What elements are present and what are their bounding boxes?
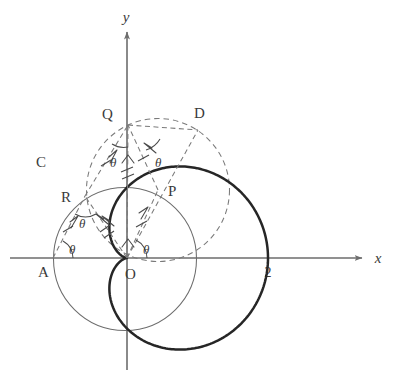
segment-O-R — [85, 196, 127, 258]
point-label-R: R — [61, 189, 71, 205]
point-label-O: O — [125, 266, 136, 282]
theta-label-at-R: θ — [79, 216, 86, 231]
point-label-D: D — [194, 105, 205, 121]
segment-tick-marks-group — [63, 155, 149, 238]
point-label-Q: Q — [102, 106, 113, 122]
theta-label-at-Q-right: θ — [155, 155, 162, 170]
theta-label-at-A: θ — [69, 242, 76, 257]
point-label-A: A — [38, 264, 49, 280]
x-axis-label: x — [374, 250, 382, 266]
geometry-figure: x y 2 — [0, 0, 400, 382]
angle-arc-at-Q-right — [146, 139, 160, 150]
y-axis-label: y — [121, 9, 130, 25]
point-label-C: C — [36, 154, 46, 170]
theta-label-at-Q-left: θ — [110, 155, 117, 170]
segment-O-D — [127, 130, 198, 258]
segment-P-Q — [128, 125, 158, 190]
angle-arc-at-Q-left — [112, 144, 128, 147]
segment-R-Q — [85, 125, 128, 196]
tick-P-Q — [138, 155, 149, 161]
arrowhead-O-P — [139, 207, 148, 219]
diagram-canvas: x y 2 — [0, 0, 400, 382]
theta-label-at-O: θ — [143, 242, 150, 257]
point-label-P: P — [168, 183, 176, 199]
segment-Q-D — [128, 125, 198, 130]
